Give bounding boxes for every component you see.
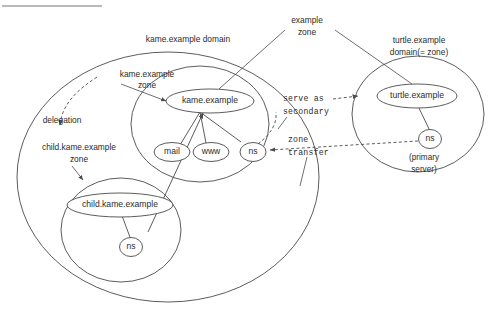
- node-turtle-example-label: turtle.example: [390, 90, 444, 100]
- delegation-label: delegation: [43, 115, 82, 125]
- turtle-domain-label-line2: domain(= zone): [390, 47, 449, 57]
- example-zone-label-line1: example: [291, 15, 323, 25]
- edge-kame-to-ns: [200, 112, 241, 142]
- node-mail-label: mail: [164, 146, 180, 156]
- node-www-label: www: [201, 146, 221, 156]
- turtle-ns-note-line1: (primary: [409, 153, 440, 162]
- kame-zone-label-line2: zone: [138, 80, 157, 90]
- leader-zone-transfer: [300, 157, 307, 186]
- node-kame-ns-label: ns: [248, 146, 257, 156]
- node-child-kame-example-label: child.kame.example: [82, 199, 158, 209]
- leader-child-zone-label: [72, 166, 83, 180]
- dns-diagram-canvas: kame.example domain kame.example zone de…: [0, 0, 503, 324]
- child-zone-label-line1: child.kame.example: [42, 142, 116, 152]
- turtle-domain-label-line1: turtle.example: [393, 35, 446, 45]
- leader-serve-as-secondary: [278, 117, 287, 129]
- turtle-ns-note-line2: server): [411, 165, 437, 174]
- zone-transfer-label-line1: zone: [288, 135, 308, 144]
- kame-domain-boundary: [17, 52, 319, 302]
- node-kame-example-label: kame.example: [182, 95, 238, 105]
- node-turtle-ns-label: ns: [425, 133, 434, 143]
- zone-transfer-label-line2: transfer: [288, 148, 329, 157]
- dns-diagram-svg: kame.example domain kame.example zone de…: [0, 0, 503, 324]
- node-child-kame-ns-label: ns: [126, 241, 135, 251]
- kame-zone-label-line1: kame.example: [120, 69, 175, 79]
- example-zone-label-line2: zone: [298, 27, 317, 37]
- kame-domain-label: kame.example domain: [146, 34, 231, 44]
- serve-as-secondary-label-line2: secondary: [283, 107, 329, 116]
- child-zone-label-line2: zone: [70, 154, 89, 164]
- serve-as-secondary-label-line1: serve as: [283, 94, 324, 103]
- edge-turtle-to-ns: [418, 106, 430, 131]
